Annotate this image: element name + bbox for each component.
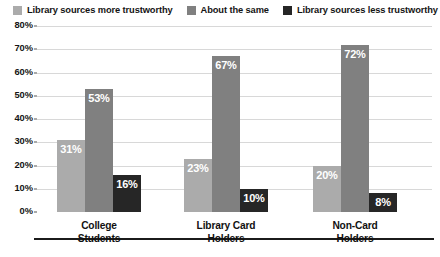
bar[interactable]: 10% xyxy=(240,189,268,212)
plot-wrapper: 0%10%20%30%40%50%60%70%80% 31%53%16%23%6… xyxy=(0,26,440,257)
bar[interactable]: 53% xyxy=(85,89,113,212)
legend-item[interactable]: Library sources less trustworthy xyxy=(283,6,438,15)
bar[interactable]: 72% xyxy=(341,45,369,212)
bar-value-label: 23% xyxy=(184,163,212,174)
plot-area: 31%53%16%23%67%10%20%72%8% xyxy=(37,26,432,212)
bar-chart: Library sources more trustworthyAbout th… xyxy=(0,0,440,257)
y-axis-tick-label: 80% xyxy=(14,21,33,30)
bar-value-label: 72% xyxy=(341,49,369,60)
bar-group: 31%53%16% xyxy=(57,26,141,212)
bar-value-label: 10% xyxy=(240,193,268,204)
y-axis-tick-label: 70% xyxy=(14,45,33,54)
y-axis-tick-label: 0% xyxy=(20,207,33,216)
y-axis-tick-label: 50% xyxy=(14,91,33,100)
x-axis-category-label: CollegeStudents xyxy=(39,220,159,245)
bar[interactable]: 20% xyxy=(313,166,341,213)
legend-swatch-about-the-same xyxy=(187,6,196,15)
x-axis-category-line: Holders xyxy=(166,233,286,246)
bar-group: 23%67%10% xyxy=(184,26,268,212)
chart-legend: Library sources more trustworthyAbout th… xyxy=(0,0,440,22)
x-axis-category-line: College xyxy=(39,220,159,233)
bar-value-label: 8% xyxy=(369,197,397,208)
bar-value-label: 20% xyxy=(313,170,341,181)
bar[interactable]: 31% xyxy=(57,140,85,212)
bar-value-label: 16% xyxy=(113,179,141,190)
bar[interactable]: 8% xyxy=(369,193,397,212)
bar-value-label: 31% xyxy=(57,144,85,155)
legend-swatch-less-trustworthy xyxy=(283,6,292,15)
bar-value-label: 53% xyxy=(85,93,113,104)
legend-item-label: Library sources less trustworthy xyxy=(297,6,438,15)
bar-groups: 31%53%16%23%67%10%20%72%8% xyxy=(37,26,432,212)
legend-item-label: Library sources more trustworthy xyxy=(27,6,173,15)
x-axis-category-label: Library CardHolders xyxy=(166,220,286,245)
bar[interactable]: 23% xyxy=(184,159,212,212)
x-axis-category-label: Non-CardHolders xyxy=(295,220,415,245)
y-axis-tick-label: 60% xyxy=(14,68,33,77)
bar-value-label: 67% xyxy=(212,60,240,71)
y-axis-tick-label: 20% xyxy=(14,161,33,170)
bar[interactable]: 16% xyxy=(113,175,141,212)
x-axis: CollegeStudentsLibrary CardHoldersNon-Ca… xyxy=(37,216,432,256)
x-axis-category-line: Students xyxy=(39,233,159,246)
legend-swatch-more-trustworthy xyxy=(13,6,22,15)
x-axis-category-line: Holders xyxy=(295,233,415,246)
x-axis-category-line: Non-Card xyxy=(295,220,415,233)
y-axis-tick-label: 30% xyxy=(14,138,33,147)
bar[interactable]: 67% xyxy=(212,56,240,212)
y-axis-tick-label: 40% xyxy=(14,114,33,123)
x-axis-category-line: Library Card xyxy=(166,220,286,233)
legend-item-label: About the same xyxy=(201,6,269,15)
legend-item[interactable]: About the same xyxy=(187,6,269,15)
bar-group: 20%72%8% xyxy=(313,26,397,212)
y-axis: 0%10%20%30%40%50%60%70%80% xyxy=(0,26,37,212)
y-axis-tick-label: 10% xyxy=(14,184,33,193)
legend-item[interactable]: Library sources more trustworthy xyxy=(13,6,173,15)
